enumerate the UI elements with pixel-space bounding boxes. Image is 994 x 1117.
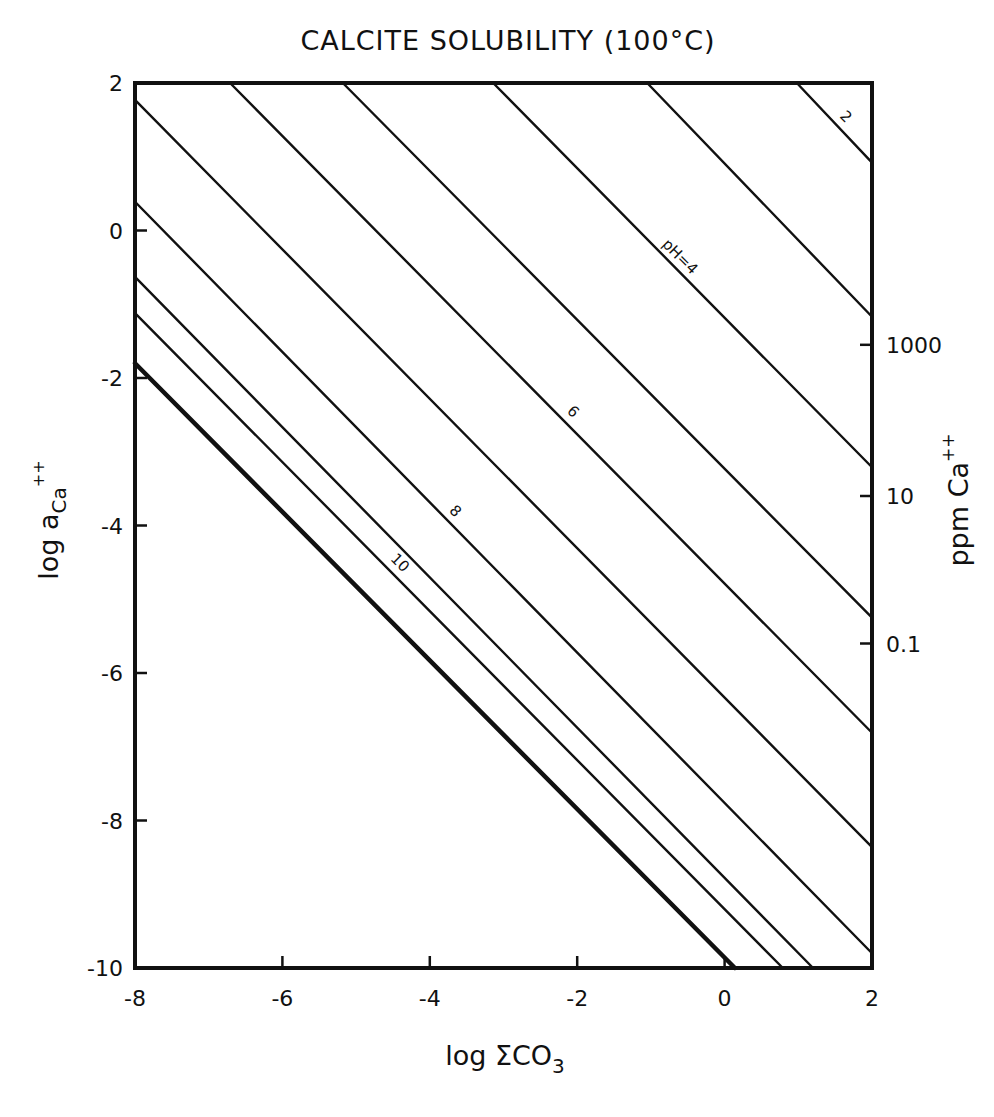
line-label-ph-2: 2 xyxy=(836,107,855,126)
y2-tick-label: 10 xyxy=(886,484,914,509)
series-line-ph-8 xyxy=(135,202,872,954)
x-axis-label-subscript: 3 xyxy=(552,1054,565,1078)
y-tick-label: -8 xyxy=(101,809,123,834)
calcite-solubility-chart: CALCITE SOLUBILITY (100°C) 2pH=46810 -8-… xyxy=(0,0,994,1117)
line-label-text: 8 xyxy=(446,501,465,520)
series-line-limit xyxy=(135,363,735,968)
y2-tick-label: 0.1 xyxy=(886,632,921,657)
x-axis-label: log ΣCO3 xyxy=(445,1040,565,1078)
series-line-ph-10 xyxy=(135,313,783,968)
y-tick-label: 2 xyxy=(109,71,123,96)
line-label-ph-6: 6 xyxy=(563,402,582,421)
line-labels: 2pH=46810 xyxy=(387,107,856,576)
y-axis-label-superscript: ++ xyxy=(29,460,48,487)
x-tick-label: -2 xyxy=(566,986,588,1011)
series-line-ph-2 xyxy=(797,83,872,163)
series-line-ph-5 xyxy=(343,83,872,618)
line-label-text: 6 xyxy=(563,402,582,421)
y2-axis-label: ppm Ca++ xyxy=(938,433,974,566)
y2-axis-label-main: ppm Ca xyxy=(943,462,974,567)
x-axis-ticks: -8-6-4-202 xyxy=(124,956,879,1011)
plot-frame xyxy=(135,83,872,968)
y-tick-label: -10 xyxy=(87,956,123,981)
y-tick-label: 0 xyxy=(109,219,123,244)
y2-tick-label: 1000 xyxy=(886,333,942,358)
series-line-ph-4 xyxy=(493,83,872,467)
y-axis-ticks: 20-2-4-6-8-10 xyxy=(87,71,147,981)
line-label-text: 2 xyxy=(836,107,855,126)
x-axis-label-main: log ΣCO xyxy=(445,1040,552,1071)
x-tick-label: -8 xyxy=(124,986,146,1011)
x-tick-label: 2 xyxy=(865,986,879,1011)
y-tick-label: -6 xyxy=(101,661,123,686)
x-tick-label: 0 xyxy=(718,986,732,1011)
y-axis-label: log aCa++ xyxy=(29,460,71,579)
plot-lines xyxy=(135,83,872,968)
y-tick-label: -2 xyxy=(101,366,123,391)
chart-title: CALCITE SOLUBILITY (100°C) xyxy=(300,25,715,56)
x-tick-label: -6 xyxy=(271,986,293,1011)
y-tick-label: -4 xyxy=(101,514,123,539)
series-line-ph-6 xyxy=(230,83,872,733)
series-line-ph-9 xyxy=(135,277,813,968)
y-axis-label-main: log a xyxy=(33,513,64,579)
line-label-ph-8: 8 xyxy=(446,501,465,520)
y-axis-label-subscript: Ca xyxy=(47,487,71,513)
x-tick-label: -4 xyxy=(419,986,441,1011)
y2-axis-label-superscript: ++ xyxy=(938,433,958,462)
